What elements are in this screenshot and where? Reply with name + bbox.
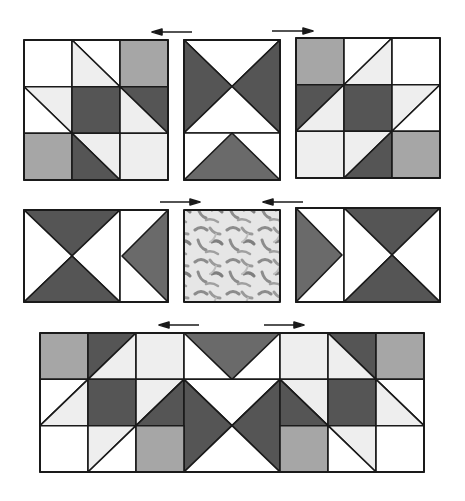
quilt-assembly-diagram — [0, 0, 465, 501]
top-right-star-block — [296, 38, 440, 178]
bottom-assembled-strip — [40, 333, 424, 472]
arrow-left-icon — [263, 199, 303, 205]
arrow-left-icon — [152, 29, 192, 35]
center-fabric-square — [184, 210, 280, 302]
arrow-right-icon — [272, 28, 313, 34]
middle-left-hourglass-block — [24, 210, 168, 302]
arrow-right-icon — [264, 322, 304, 328]
arrow-right-icon — [160, 199, 200, 205]
top-center-hourglass-block — [184, 40, 280, 180]
arrow-left-icon — [159, 322, 199, 328]
top-left-star-block — [24, 40, 168, 180]
middle-right-hourglass-block — [296, 208, 440, 302]
